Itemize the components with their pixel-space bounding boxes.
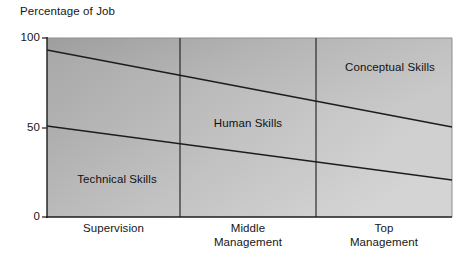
x-category-supervision: Supervision bbox=[47, 222, 180, 236]
band-label-technical: Technical Skills bbox=[57, 173, 177, 185]
x-category-middle-line1: Middle bbox=[180, 222, 316, 236]
plot-area bbox=[0, 0, 474, 258]
x-category-top-line2: Management bbox=[316, 236, 452, 250]
x-category-supervision-line1: Supervision bbox=[47, 222, 180, 236]
x-category-middle-management: Middle Management bbox=[180, 222, 316, 249]
x-category-top-line1: Top bbox=[316, 222, 452, 236]
x-category-middle-line2: Management bbox=[180, 236, 316, 250]
x-category-top-management: Top Management bbox=[316, 222, 452, 249]
band-label-human: Human Skills bbox=[188, 117, 308, 129]
band-label-conceptual: Conceptual Skills bbox=[330, 61, 450, 73]
skills-chart-figure: Percentage of Job 100 50 0 bbox=[0, 0, 474, 258]
